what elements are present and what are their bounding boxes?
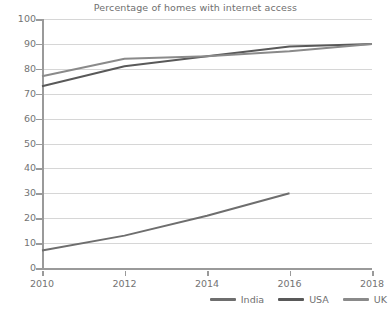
legend-label: India xyxy=(241,294,264,305)
legend-label: UK xyxy=(374,294,387,305)
legend-line-icon xyxy=(210,298,236,300)
legend-line-icon xyxy=(343,298,369,300)
series-line-uk xyxy=(42,44,372,76)
legend-line-icon xyxy=(278,298,304,300)
series-lines xyxy=(0,0,391,319)
chart-legend: IndiaUSAUK xyxy=(0,294,391,305)
legend-item-india[interactable]: India xyxy=(210,294,264,305)
legend-item-uk[interactable]: UK xyxy=(343,294,387,305)
series-line-india xyxy=(42,193,290,250)
legend-item-usa[interactable]: USA xyxy=(278,294,329,305)
line-chart: Percentage of homes with internet access… xyxy=(0,0,391,319)
legend-label: USA xyxy=(309,294,329,305)
